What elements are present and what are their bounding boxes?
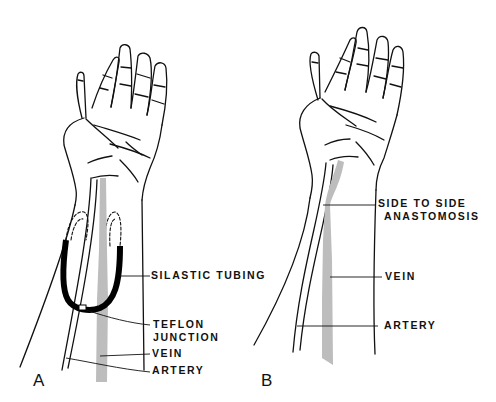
panel-a-vein (96, 178, 108, 382)
label-artery-a: ARTERY (152, 364, 204, 377)
panel-a-artery-lines (62, 178, 97, 370)
arteriovenous-shunt-diagram: SILASTIC TUBING TEFLON JUNCTION VEIN ART… (0, 0, 496, 402)
label-silastic-tubing: SILASTIC TUBING (151, 269, 266, 282)
panel-a-hand-arm-icon (20, 45, 167, 370)
panel-a-leader-lines (66, 276, 150, 372)
panel-a-tubing-inserted-dashed (66, 212, 121, 246)
panel-letter-b: B (261, 371, 272, 391)
label-teflon-junction-line2: JUNCTION (153, 331, 219, 344)
label-anastomosis: ANASTOMOSIS (384, 210, 480, 223)
label-side-to-side: SIDE TO SIDE (378, 197, 466, 210)
label-vein-b: VEIN (385, 270, 416, 283)
panel-b-vein (322, 160, 344, 365)
panel-a-silastic-tubing (63, 240, 120, 310)
label-vein-a: VEIN (152, 347, 183, 360)
label-teflon-junction-line1: TEFLON (153, 318, 205, 331)
panel-letter-a: A (33, 371, 44, 391)
label-artery-b: ARTERY (384, 319, 436, 332)
panel-a-teflon-junction (79, 305, 86, 310)
panel-b-leader-lines (297, 205, 382, 326)
